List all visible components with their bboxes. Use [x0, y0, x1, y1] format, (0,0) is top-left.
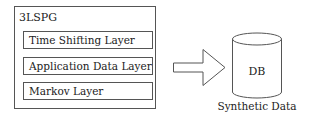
right-arrow-icon — [174, 50, 226, 86]
db-label: DB — [232, 65, 282, 78]
synthetic-data-caption: Synthetic Data — [212, 100, 302, 113]
